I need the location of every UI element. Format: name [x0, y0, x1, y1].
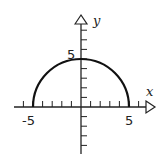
y-axis-arrow-icon	[75, 15, 87, 24]
x-axis-arrow-icon	[146, 101, 155, 113]
x-axis-label: x	[146, 84, 154, 99]
x-tick-label-neg5: -5	[22, 113, 35, 128]
y-tick-label-5: 5	[67, 47, 75, 62]
x-tick-label-5: 5	[125, 113, 133, 128]
semicircle-plot: y x 5 -5 5	[0, 0, 165, 160]
y-axis-label: y	[92, 13, 101, 28]
y-ticks	[81, 30, 87, 145]
